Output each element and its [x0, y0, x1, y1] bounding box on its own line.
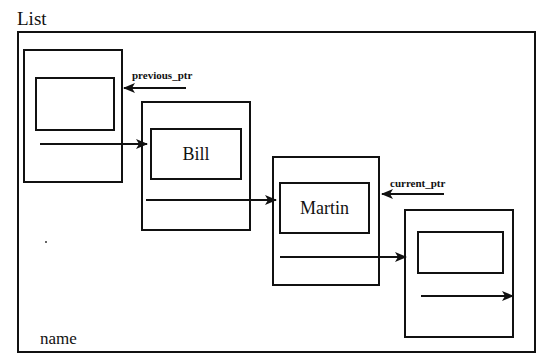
- node-3-name: Martin: [300, 198, 349, 219]
- node-1-name-box: [35, 77, 115, 131]
- node-2-name: Bill: [182, 144, 209, 165]
- list-node-2: Bill: [141, 101, 251, 231]
- node-4-name-box: [417, 231, 504, 274]
- node-2-name-box: Bill: [150, 128, 242, 180]
- previous-ptr-label: previous_ptr: [132, 69, 192, 81]
- list-node-4: [404, 209, 514, 338]
- node-3-name-box: Martin: [279, 182, 370, 234]
- current-ptr-label: current_ptr: [390, 177, 445, 189]
- list-node-3: Martin: [272, 156, 380, 286]
- list-title: List: [17, 8, 47, 30]
- list-node-1: [23, 49, 123, 183]
- name-label: name: [40, 329, 77, 349]
- stray-dot: [45, 241, 47, 243]
